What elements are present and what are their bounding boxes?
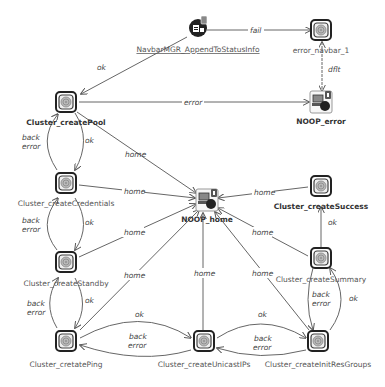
edge-label-ok: ok bbox=[135, 310, 145, 319]
svg-text:Cluster_createPool: Cluster_createPool bbox=[26, 118, 105, 127]
edge-initres-unicast-back[interactable]: back error bbox=[217, 334, 306, 356]
edge-label-ok: ok bbox=[85, 218, 95, 227]
edge-credentials-home[interactable]: home bbox=[79, 185, 195, 198]
node-cluster-createcredentials[interactable]: Cluster_createCredentials bbox=[18, 173, 115, 208]
svg-text:Cluster_createStandby: Cluster_createStandby bbox=[23, 279, 109, 288]
action-icon bbox=[189, 16, 207, 37]
svg-text:NavbarMGR_AppendToStatusInfo: NavbarMGR_AppendToStatusInfo bbox=[136, 45, 260, 54]
edge-label-ok: ok bbox=[85, 296, 95, 305]
state-icon bbox=[311, 20, 331, 40]
state-icon bbox=[311, 248, 331, 268]
svg-text:NOOP_home: NOOP_home bbox=[181, 215, 233, 224]
edge-unicast-ping-back[interactable]: back error bbox=[80, 332, 191, 356]
edge-pool-error[interactable]: error bbox=[79, 97, 309, 107]
edge-label-error: error bbox=[184, 98, 203, 107]
state-icon bbox=[56, 92, 76, 112]
svg-text:NOOP_error: NOOP_error bbox=[296, 117, 346, 126]
edge-navbar-fail[interactable]: fail bbox=[207, 25, 311, 35]
edge-label-error: error bbox=[22, 142, 41, 151]
node-noop-home[interactable]: NOOP_home bbox=[181, 189, 233, 224]
svg-text:Cluster_createSuccess: Cluster_createSuccess bbox=[274, 202, 369, 211]
state-icon bbox=[308, 331, 328, 351]
state-icon bbox=[56, 331, 76, 351]
edge-label-ok: ok bbox=[85, 136, 95, 145]
node-error-navbar-1[interactable]: error_navbar_1 bbox=[293, 20, 350, 55]
edge-label-back: back bbox=[129, 332, 147, 341]
edge-label-ok: ok bbox=[97, 63, 107, 72]
edge-label-back: back bbox=[312, 290, 330, 299]
edge-label-home: home bbox=[124, 228, 146, 237]
svg-text:Cluster_createCredentials: Cluster_createCredentials bbox=[18, 199, 115, 208]
edge-label-ok: ok bbox=[349, 294, 359, 303]
edge-label-home: home bbox=[252, 228, 274, 237]
node-cluster-createinitresgroups[interactable]: Cluster_createInitResGroups bbox=[265, 331, 371, 369]
node-cluster-createunicastips[interactable]: Cluster_createUnicastIPs bbox=[158, 331, 251, 369]
edge-label-dflt: dflt bbox=[328, 65, 342, 74]
node-cluster-createpool[interactable]: Cluster_createPool bbox=[26, 92, 105, 127]
edge-label-ok: ok bbox=[258, 310, 268, 319]
edge-label-back: back bbox=[22, 133, 40, 142]
edge-label-back: back bbox=[27, 299, 45, 308]
noop-icon bbox=[196, 189, 218, 211]
edge-label-home: home bbox=[252, 269, 274, 278]
edge-success-home[interactable]: home bbox=[218, 187, 308, 198]
svg-text:Cluster_createInitResGroups: Cluster_createInitResGroups bbox=[265, 360, 371, 369]
state-icon bbox=[56, 252, 76, 272]
node-cluster-createsummary[interactable]: Cluster_createSummary bbox=[276, 248, 367, 284]
state-diagram: fail dflt ok error home home home home h… bbox=[0, 0, 385, 387]
node-cluster-createstandby[interactable]: Cluster_createStandby bbox=[23, 252, 109, 288]
svg-text:error_navbar_1: error_navbar_1 bbox=[293, 46, 350, 55]
edge-label-home: home bbox=[194, 269, 216, 278]
edge-label-back: back bbox=[254, 334, 272, 343]
svg-text:Cluster_createSummary: Cluster_createSummary bbox=[276, 275, 367, 284]
edge-label-home: home bbox=[254, 188, 276, 197]
edge-summary-success-ok[interactable]: ok bbox=[321, 207, 338, 248]
state-icon bbox=[194, 331, 214, 351]
edge-label-error: error bbox=[128, 341, 147, 350]
edge-label-fail: fail bbox=[250, 26, 262, 35]
svg-text:Cluster_createUnicastIPs: Cluster_createUnicastIPs bbox=[158, 360, 251, 369]
edge-label-home: home bbox=[125, 150, 147, 159]
edge-label-home: home bbox=[124, 271, 146, 280]
edge-label-error: error bbox=[312, 299, 331, 308]
edge-label-ok: ok bbox=[328, 218, 338, 227]
noop-icon bbox=[310, 91, 332, 113]
state-icon bbox=[311, 176, 331, 196]
edge-label-error: error bbox=[253, 343, 272, 352]
edge-label-back: back bbox=[22, 216, 40, 225]
state-icon bbox=[56, 173, 76, 193]
edge-label-home: home bbox=[124, 187, 146, 196]
node-cluster-createsuccess[interactable]: Cluster_createSuccess bbox=[274, 176, 369, 211]
edge-label-error: error bbox=[22, 225, 41, 234]
edge-unicast-home[interactable]: home bbox=[192, 213, 216, 330]
svg-text:Cluster_cretatePing: Cluster_cretatePing bbox=[29, 360, 102, 369]
node-cluster-cretateping[interactable]: Cluster_cretatePing bbox=[29, 331, 102, 369]
node-navbarmgr-append[interactable]: NavbarMGR_AppendToStatusInfo bbox=[136, 16, 260, 54]
node-noop-error[interactable]: NOOP_error bbox=[296, 91, 346, 126]
edge-label-error: error bbox=[27, 308, 46, 317]
